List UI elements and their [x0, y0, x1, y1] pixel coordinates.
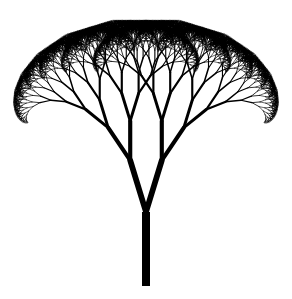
fractal-tree-image — [0, 0, 292, 299]
fractal-tree-graphic — [0, 0, 292, 299]
